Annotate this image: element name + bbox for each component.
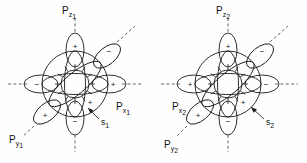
- sign-inner-plus-right: +: [241, 98, 246, 107]
- diagram-right: + − − + − + + Pz2 Px2 Py2 s2: [161, 5, 298, 154]
- py-axis-line-lower: [22, 126, 34, 137]
- diagram-left: + − + − − + + Pz1 Px1 Py1 s: [8, 5, 143, 152]
- label-px-right: Px2: [172, 101, 186, 116]
- sign-px-left-left: −: [35, 80, 40, 89]
- lobe-signs-right: + − − + − + +: [188, 42, 269, 126]
- lobe-px-left-left: [24, 75, 58, 93]
- label-s-right: s2: [266, 117, 274, 129]
- label-py-left: Py1: [9, 134, 23, 149]
- axis-lines-right: [161, 18, 298, 152]
- sign-py-upright-right: −: [260, 47, 265, 56]
- py-axis-line-r: [270, 26, 288, 42]
- label-s-left: s1: [101, 117, 109, 129]
- sign-px-right-right: −: [264, 80, 269, 89]
- lobe-px-right-left: [92, 75, 126, 93]
- figure-canvas: + − + − − + + Pz1 Px1 Py1 s: [0, 0, 307, 163]
- inner-arc-horizontal-right: [195, 74, 261, 95]
- sign-pz-up-left: +: [73, 42, 78, 51]
- label-pz-left: Pz1: [62, 5, 76, 20]
- inner-arc-diag-left: [43, 55, 107, 114]
- sign-px-right-left: +: [111, 80, 116, 89]
- lobe-signs-left: + − + − − + +: [35, 42, 116, 126]
- sign-py-downleft-right: +: [196, 111, 201, 120]
- sign-px-left-right: +: [188, 80, 193, 89]
- inner-arc-vertical-left: [65, 51, 86, 117]
- sign-inner-plus-left: +: [88, 98, 93, 107]
- sign-pz-down-left: −: [73, 117, 78, 126]
- sign-py-upright-left: −: [107, 47, 112, 56]
- sign-pz-down-right: −: [226, 117, 231, 126]
- axis-labels-left: Pz1 Px1 Py1 s1: [9, 5, 130, 149]
- label-pz-right: Pz2: [216, 5, 230, 20]
- label-py-right: Py2: [164, 139, 178, 154]
- axis-lines-left: [8, 18, 143, 152]
- py-axis-line-lower-r: [176, 126, 187, 137]
- sign-pz-up-right: +: [226, 42, 231, 51]
- outer-ring-left: [42, 51, 108, 117]
- inner-arc-diag-right: [196, 55, 260, 114]
- lobe-px-right-right: [245, 75, 279, 93]
- s-leader-right: [251, 107, 264, 119]
- py-axis-line: [117, 26, 135, 42]
- orbital-diagram-svg: + − + − − + + Pz1 Px1 Py1 s: [0, 0, 307, 163]
- label-px-left: Px1: [116, 101, 130, 116]
- lobe-px-left-right: [177, 75, 211, 93]
- sign-py-downleft-left: +: [43, 111, 48, 120]
- inner-arc-horizontal-left: [42, 74, 108, 95]
- inner-arc-vertical-right: [218, 51, 239, 117]
